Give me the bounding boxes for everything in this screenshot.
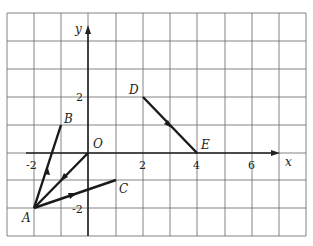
x-axis-label: x	[285, 155, 292, 169]
point-label-B: B	[63, 112, 73, 126]
y-tick-2: 2	[76, 91, 83, 104]
origin-label: O	[93, 137, 103, 151]
vector-arrowheads	[44, 120, 172, 199]
point-label-C: C	[119, 182, 128, 196]
axes	[26, 30, 276, 236]
y-axis-arrow-icon	[85, 25, 91, 34]
x-tick-4: 4	[193, 159, 200, 172]
x-tick-6: 6	[248, 159, 255, 172]
y-axis-label: y	[74, 22, 82, 36]
point-label-A: A	[21, 211, 31, 225]
arrow-AC-icon	[68, 193, 77, 199]
coordinate-diagram: x y O -2 2 4 6 2 -2 A B C D E	[0, 0, 313, 246]
x-tick-2: 2	[139, 159, 146, 172]
y-tick-neg2: -2	[72, 203, 83, 216]
point-label-D: D	[128, 83, 139, 97]
point-label-E: E	[200, 138, 210, 152]
x-tick-neg2: -2	[26, 159, 37, 172]
